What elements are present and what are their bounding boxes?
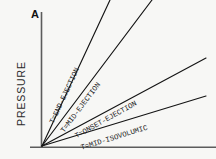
y-axis-title: PRESSURE — [16, 61, 27, 126]
panel-letter: A — [31, 9, 39, 20]
figure-panel-a: A PRESSURE T=END-EJECTION T=MID-EJECTION… — [0, 0, 216, 159]
